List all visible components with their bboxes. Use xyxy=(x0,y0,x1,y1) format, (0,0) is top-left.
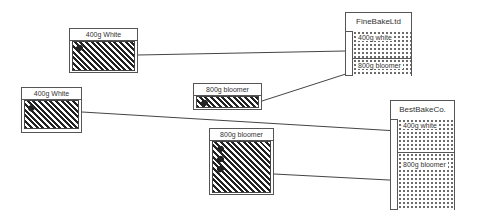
slot-400g-white[interactable]: 400g white xyxy=(398,119,454,153)
hatched-area xyxy=(24,100,79,129)
company-slots: 400g white 800g bloomer xyxy=(352,31,411,75)
slot-label: 400g white xyxy=(401,122,439,129)
connector-400g-white-top-to-finebake xyxy=(138,51,345,55)
company-name: FineBakeLtd xyxy=(346,13,411,32)
product-label: 800g bloomer xyxy=(210,129,273,141)
item-marker-icon xyxy=(216,165,225,174)
product-box-400g-white-top[interactable]: 400g White xyxy=(69,28,138,73)
item-marker-icon xyxy=(200,99,209,108)
company-box-bestbakeco[interactable]: BestBakeCo. 400g white 800g bloomer xyxy=(390,100,455,210)
slot-label: 800g bloomer xyxy=(356,62,403,69)
product-box-400g-white-left[interactable]: 400g White xyxy=(21,87,82,133)
hatched-area xyxy=(72,41,135,71)
item-marker-icon xyxy=(27,104,36,113)
hatched-area xyxy=(212,141,271,193)
slot-label: 800g bloomer xyxy=(401,161,448,168)
company-slots: 400g white 800g bloomer xyxy=(397,119,454,209)
item-marker-icon xyxy=(216,145,225,154)
connector-800g-bloomer-small-to-finebake xyxy=(262,72,352,101)
product-label: 400g White xyxy=(70,29,137,41)
slot-800g-bloomer[interactable]: 800g bloomer xyxy=(398,153,454,210)
slot-label: 400g white xyxy=(356,34,394,41)
slot-800g-bloomer[interactable]: 800g bloomer xyxy=(353,59,411,76)
product-box-800g-bloomer-large[interactable]: 800g bloomer xyxy=(209,128,274,195)
slot-400g-white[interactable]: 400g white xyxy=(353,31,411,59)
hatched-area xyxy=(196,96,259,108)
product-label: 800g bloomer xyxy=(194,84,261,96)
item-marker-icon xyxy=(216,155,225,164)
company-box-finebakeltd[interactable]: FineBakeLtd 400g white 800g bloomer xyxy=(345,12,412,76)
product-label: 400g White xyxy=(22,88,81,100)
product-box-800g-bloomer-small[interactable]: 800g bloomer xyxy=(193,83,262,110)
company-name: BestBakeCo. xyxy=(391,101,454,120)
item-marker-icon xyxy=(75,44,84,53)
